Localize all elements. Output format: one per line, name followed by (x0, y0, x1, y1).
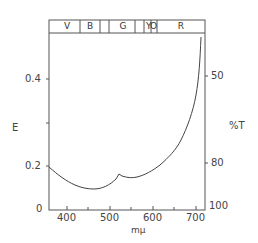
band-label-violet: V (60, 21, 74, 31)
y-axis-label-percent-t: %T (229, 120, 245, 131)
band-label-red: R (175, 21, 187, 31)
x-tick-label-400: 400 (57, 212, 76, 223)
x-tick-label-700: 700 (186, 212, 205, 223)
y-axis-label-e: E (12, 122, 18, 133)
x-tick-label-600: 600 (143, 212, 162, 223)
right-tick-label-100: 100 (209, 200, 228, 211)
right-tick-label-50: 50 (211, 70, 224, 81)
y-tick-label-0.4: 0.4 (25, 73, 41, 84)
band-label-blue: B (84, 21, 96, 31)
y-tick-label-0: 0 (36, 203, 42, 214)
band-label-green: G (116, 21, 130, 31)
x-axis-label-mu: mμ (131, 225, 146, 235)
band-label-yellow-orange: YO (143, 21, 159, 31)
x-tick-label-500: 500 (100, 212, 119, 223)
right-tick-label-80: 80 (211, 157, 224, 168)
x-ticks (67, 206, 196, 210)
absorption-curve (49, 37, 201, 189)
plot-frame (49, 20, 205, 210)
y-tick-label-0.2: 0.2 (25, 160, 41, 171)
